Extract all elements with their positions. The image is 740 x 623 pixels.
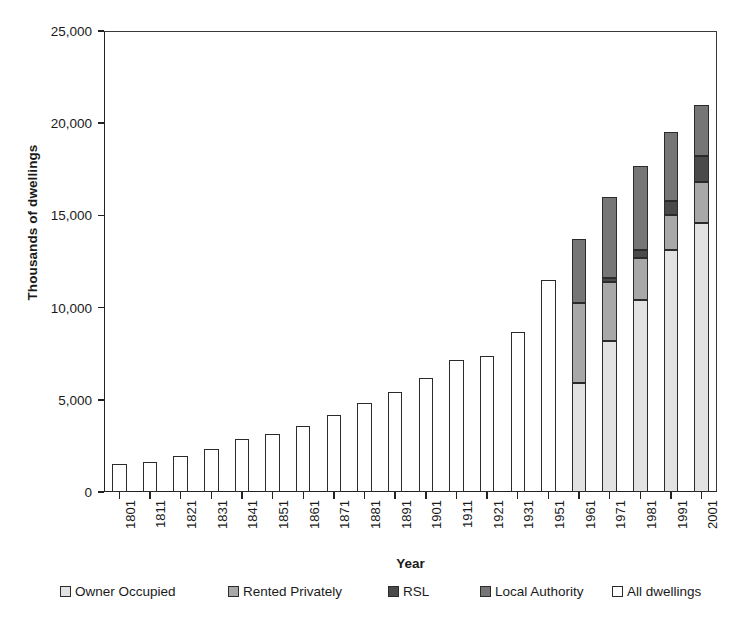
bar[interactable] (235, 439, 250, 492)
bar-group[interactable] (480, 31, 495, 492)
bar-segment-all-dwellings[interactable] (143, 462, 158, 492)
bar-segment-all-dwellings[interactable] (419, 378, 434, 492)
legend-item[interactable]: RSL (388, 584, 429, 599)
bar-segment-all-dwellings[interactable] (357, 403, 372, 492)
bar[interactable] (296, 426, 311, 492)
bar-segment-owner-occupied[interactable] (694, 223, 709, 492)
legend-swatch-icon (612, 586, 623, 597)
bar-group[interactable] (511, 31, 526, 492)
bar-segment-all-dwellings[interactable] (388, 392, 403, 492)
y-axis-tick-label: 0 (0, 485, 92, 500)
bar[interactable] (480, 356, 495, 492)
bar-segment-rented-privately[interactable] (602, 282, 617, 341)
bar-group[interactable] (143, 31, 158, 492)
legend-item-label: RSL (403, 584, 429, 599)
bar-segment-all-dwellings[interactable] (480, 356, 495, 492)
bar-segment-rented-privately[interactable] (633, 258, 648, 300)
x-axis-tick-label: 1821 (186, 500, 197, 552)
bar-group[interactable] (296, 31, 311, 492)
legend-item[interactable]: Local Authority (480, 584, 584, 599)
bar-segment-rented-privately[interactable] (664, 215, 679, 250)
bar-segment-all-dwellings[interactable] (235, 439, 250, 492)
bar[interactable] (327, 415, 342, 492)
bar-segment-rented-privately[interactable] (572, 303, 587, 383)
x-axis-tick-mark (425, 492, 426, 499)
bar-group[interactable] (449, 31, 464, 492)
bar-segment-rsl[interactable] (633, 250, 648, 258)
x-axis-tick-label: 1931 (523, 500, 534, 552)
bar-segment-owner-occupied[interactable] (664, 250, 679, 492)
bar-segment-all-dwellings[interactable] (511, 332, 526, 492)
x-axis-tick-label: 1951 (554, 500, 565, 552)
bar[interactable] (419, 378, 434, 492)
bar-segment-local-authority[interactable] (602, 197, 617, 278)
bar-group[interactable] (173, 31, 188, 492)
bar[interactable] (449, 360, 464, 492)
legend-swatch-icon (480, 586, 491, 597)
x-axis-tick-label: 1881 (370, 500, 381, 552)
y-axis-tick-label: 15,000 (0, 208, 92, 223)
x-axis-tick-mark (701, 492, 702, 499)
legend-item[interactable]: All dwellings (612, 584, 701, 599)
x-axis-tick-mark (303, 492, 304, 499)
bar-segment-local-authority[interactable] (664, 132, 679, 200)
bar-segment-rented-privately[interactable] (694, 182, 709, 223)
x-axis-tick-mark (517, 492, 518, 499)
bar[interactable] (664, 132, 679, 492)
bar[interactable] (112, 464, 127, 492)
bar-group[interactable] (572, 31, 587, 492)
bar-group[interactable] (388, 31, 403, 492)
legend-item[interactable]: Rented Privately (228, 584, 342, 599)
bar-segment-all-dwellings[interactable] (204, 449, 219, 492)
bar-segment-all-dwellings[interactable] (112, 464, 127, 492)
bar[interactable] (143, 462, 158, 492)
bar-segment-owner-occupied[interactable] (633, 300, 648, 492)
bar-segment-all-dwellings[interactable] (265, 434, 280, 492)
bar[interactable] (511, 332, 526, 492)
legend-item-label: All dwellings (627, 584, 701, 599)
bar-segment-all-dwellings[interactable] (449, 360, 464, 492)
bar[interactable] (204, 449, 219, 492)
bar-segment-rsl[interactable] (602, 278, 617, 282)
bar[interactable] (602, 197, 617, 492)
bar[interactable] (541, 280, 556, 492)
bar-group[interactable] (419, 31, 434, 492)
bar[interactable] (173, 456, 188, 492)
legend-item[interactable]: Owner Occupied (60, 584, 176, 599)
bar-segment-all-dwellings[interactable] (173, 456, 188, 492)
bar[interactable] (572, 239, 587, 492)
bar-segment-all-dwellings[interactable] (296, 426, 311, 492)
bar-group[interactable] (541, 31, 556, 492)
bar-group[interactable] (112, 31, 127, 492)
bar-group[interactable] (694, 31, 709, 492)
bar-segment-local-authority[interactable] (572, 239, 587, 303)
bar-segment-local-authority[interactable] (694, 105, 709, 157)
bar[interactable] (388, 392, 403, 492)
x-axis-tick-label: 1891 (401, 500, 412, 552)
x-axis-tick-label: 1811 (155, 500, 166, 552)
x-axis-tick-label: 1851 (278, 500, 289, 552)
bar[interactable] (694, 105, 709, 492)
bar[interactable] (357, 403, 372, 492)
bar-group[interactable] (235, 31, 250, 492)
bar[interactable] (265, 434, 280, 492)
bar-group[interactable] (602, 31, 617, 492)
x-axis-tick-mark (486, 492, 487, 499)
bar-group[interactable] (357, 31, 372, 492)
x-axis-tick-mark (119, 492, 120, 499)
bar-group[interactable] (327, 31, 342, 492)
bar[interactable] (633, 166, 648, 492)
bar-group[interactable] (664, 31, 679, 492)
bar-segment-all-dwellings[interactable] (541, 280, 556, 492)
bar-segment-local-authority[interactable] (633, 166, 648, 250)
bar-segment-rsl[interactable] (694, 156, 709, 182)
bar-group[interactable] (204, 31, 219, 492)
bar-segment-rsl[interactable] (664, 201, 679, 216)
bar-segment-all-dwellings[interactable] (327, 415, 342, 492)
x-axis-tick-mark (180, 492, 181, 499)
bar-group[interactable] (633, 31, 648, 492)
bar-segment-owner-occupied[interactable] (602, 341, 617, 492)
x-axis-title: Year (104, 556, 717, 571)
bar-segment-owner-occupied[interactable] (572, 383, 587, 492)
bar-group[interactable] (265, 31, 280, 492)
